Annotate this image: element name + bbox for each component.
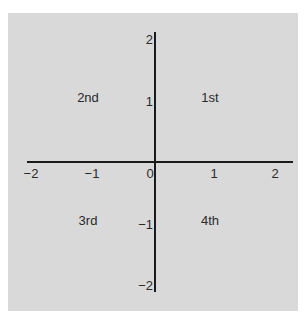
y-tick-label: 2 xyxy=(146,32,153,47)
quadrant-label: 1st xyxy=(201,90,219,105)
quadrant-label: 3rd xyxy=(79,213,98,228)
x-tick-label: −1 xyxy=(85,166,100,181)
y-tick-label: −1 xyxy=(138,217,153,232)
quadrant-label: 4th xyxy=(201,213,219,228)
x-tick-label: −2 xyxy=(24,166,39,181)
x-tick-label: 2 xyxy=(271,166,278,181)
x-tick-label: 1 xyxy=(210,166,217,181)
quadrant-label: 2nd xyxy=(77,90,99,105)
y-tick-label: 1 xyxy=(146,94,153,109)
y-tick-label: −2 xyxy=(138,278,153,293)
x-tick-label: 0 xyxy=(146,166,153,181)
coordinate-plane: −2−1012 21−1−2 1st2nd3rd4th xyxy=(0,0,305,317)
